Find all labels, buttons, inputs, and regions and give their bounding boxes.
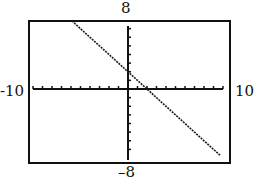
window-frame <box>29 21 230 163</box>
graph-window <box>0 0 258 179</box>
axes <box>33 26 223 160</box>
